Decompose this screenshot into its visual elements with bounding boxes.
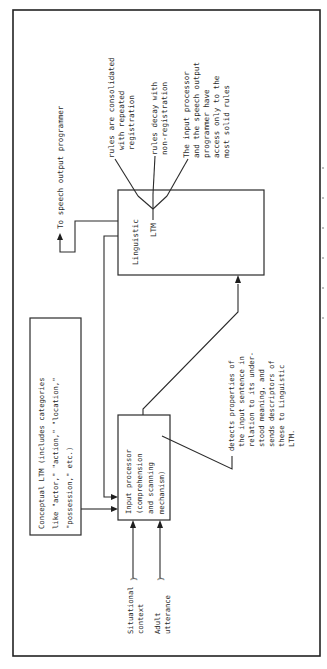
diagram-page: Linguistic LTM rules are consolidated wi…	[0, 0, 327, 669]
note-access-line-3: programmer have	[202, 89, 211, 158]
input-note-line-5: sends descriptors of	[267, 360, 276, 447]
input-note-leader	[162, 436, 232, 469]
linguistic-ltm-title: Linguistic	[131, 219, 140, 265]
note-decay-line-1: rules decay with	[150, 82, 159, 155]
conceptual-ltm-line-1: Conceptual LTM (includes categories	[37, 378, 46, 529]
note-consolidation-line-2: with repeated	[117, 91, 126, 150]
note-leader-decay	[153, 156, 155, 194]
input-note-line-7: LTM.	[287, 430, 296, 447]
input-note-line-2: the input sentence in	[237, 356, 246, 447]
situational-context-line-2: context	[136, 604, 145, 634]
faint-caption-traces	[322, 167, 324, 319]
input-processor-line-4: mechanism)	[157, 471, 166, 514]
conceptual-ltm-line-3: "possession," etc.)	[65, 447, 74, 529]
note-consolidation-line-1: rules are consolidated	[107, 57, 116, 158]
input-processor-line-2: (comprehension	[135, 453, 144, 514]
situational-context-brace: }	[129, 577, 138, 581]
speech-output-label: To speech output programmer	[56, 105, 65, 229]
note-access-line-4: access only to the	[212, 75, 221, 158]
speech-output-arrowhead	[57, 233, 63, 240]
situational-context-line-1: Situational	[126, 586, 135, 634]
linguistic-ltm-subtitle: LTM	[149, 223, 158, 237]
conceptual-to-input-arrowhead	[111, 506, 118, 512]
input-note-line-3: relation to its under-	[247, 352, 256, 447]
conceptual-ltm-line-2: like "actor," "action," "location,"	[51, 378, 60, 529]
input-note-line-1: detects properties of	[227, 360, 236, 451]
note-decay: rules decay with non-registration	[150, 82, 169, 155]
note-access: The input processor and the speech outpu…	[182, 62, 231, 158]
input-processor-note: detects properties of the input sentence…	[227, 352, 296, 451]
input-to-linguistic-line	[143, 284, 238, 415]
language-acquisition-diagram: Linguistic LTM rules are consolidated wi…	[0, 0, 327, 669]
adult-utterance-line-1: Adult	[153, 612, 162, 634]
note-access-line-1: The input processor	[182, 71, 191, 158]
input-processor-line-1: Input processor	[124, 448, 133, 514]
ltm-to-input-arrowhead	[111, 494, 118, 500]
ltm-to-input-processor-line	[104, 236, 118, 497]
input-note-line-6: these to Linguistic	[277, 365, 286, 447]
situational-context-arrowhead	[130, 520, 136, 528]
note-decay-line-2: non-registration	[160, 82, 169, 155]
adult-utterance-brace: }	[156, 577, 165, 581]
adult-utterance-arrowhead	[157, 520, 163, 528]
note-consolidation-line-3: registration	[127, 95, 136, 150]
note-access-line-2: and the speech output	[192, 62, 201, 158]
adult-utterance-line-2: utterance	[163, 595, 172, 634]
note-consolidation: rules are consolidated with repeated reg…	[107, 57, 136, 158]
input-processor-line-3: and scanning	[146, 462, 155, 514]
input-to-linguistic-arrowhead	[235, 275, 241, 283]
input-note-line-4: stood meaning, and	[257, 369, 266, 447]
note-access-line-5: most solid rules	[222, 85, 231, 158]
